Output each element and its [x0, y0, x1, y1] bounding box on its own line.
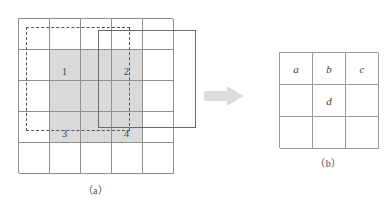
grid-cell	[50, 143, 81, 174]
grid-cell	[112, 81, 143, 112]
panel-a-grid: 1 2 3 4	[18, 18, 173, 173]
cell-label-2: 2	[111, 66, 142, 77]
result-cell-empty	[346, 85, 379, 117]
grid-3x3: a b c d	[279, 52, 378, 148]
result-cell-empty	[280, 117, 313, 149]
grid-cell	[81, 50, 112, 81]
grid-cell	[143, 50, 174, 81]
result-cell-empty	[280, 85, 313, 117]
result-cell-empty	[346, 117, 379, 149]
grid-cell	[19, 50, 50, 81]
result-cell-empty	[313, 117, 346, 149]
grid-cell	[112, 143, 143, 174]
grid-cell	[19, 143, 50, 174]
result-cell-c: c	[346, 53, 379, 85]
grid-cell	[143, 112, 174, 143]
grid-cell	[143, 19, 174, 50]
grid-cell	[50, 19, 81, 50]
grid-cell	[81, 143, 112, 174]
result-cell-a: a	[280, 53, 313, 85]
grid-cell	[112, 19, 143, 50]
panel-b-grid: a b c d	[279, 52, 378, 148]
grid-cell	[81, 112, 112, 143]
cell-label-3: 3	[49, 128, 80, 139]
caption-panel-b: （b）	[279, 155, 378, 170]
right-arrow-icon	[204, 86, 244, 106]
grid-cell	[19, 112, 50, 143]
grid-cell	[81, 19, 112, 50]
grid-5x5	[18, 18, 173, 173]
cell-label-4: 4	[111, 128, 142, 139]
result-cell-d: d	[313, 85, 346, 117]
figure-container: 1 2 3 4 （a） a b c d （b）	[0, 0, 388, 205]
grid-cell	[19, 81, 50, 112]
grid-cell	[143, 143, 174, 174]
grid-cell	[19, 19, 50, 50]
grid-cell	[143, 81, 174, 112]
grid-cell	[50, 81, 81, 112]
caption-panel-a: （a）	[18, 182, 173, 197]
cell-label-1: 1	[49, 66, 80, 77]
grid-cell	[81, 81, 112, 112]
result-cell-b: b	[313, 53, 346, 85]
